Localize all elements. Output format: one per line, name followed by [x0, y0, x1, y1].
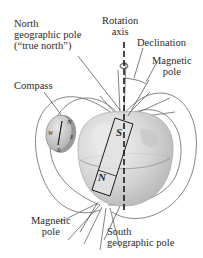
- label-compass: Compass: [14, 80, 53, 91]
- compass-letter-s: S: [57, 145, 61, 156]
- label-magnetic-pole-top: Magnetic pole: [152, 55, 192, 77]
- label-declination: Declination: [137, 37, 186, 48]
- label-magnetic-pole-bottom: Magnetic pole: [31, 215, 71, 237]
- compass-letter-n: N: [67, 117, 72, 128]
- earth-magnetic-field-diagram: N S W E S N North geographic pole (“true…: [0, 0, 203, 258]
- label-north-geographic-pole: North geographic pole (“true north”): [14, 18, 81, 51]
- label-rotation-axis: Rotation axis: [102, 15, 138, 37]
- compass-letter-w: W: [48, 128, 53, 139]
- magnet-pole-n: N: [98, 172, 106, 183]
- compass-letter-e: E: [70, 132, 74, 143]
- magnet-pole-s: S: [116, 127, 122, 138]
- label-south-geographic-pole: South geographic pole: [107, 226, 174, 248]
